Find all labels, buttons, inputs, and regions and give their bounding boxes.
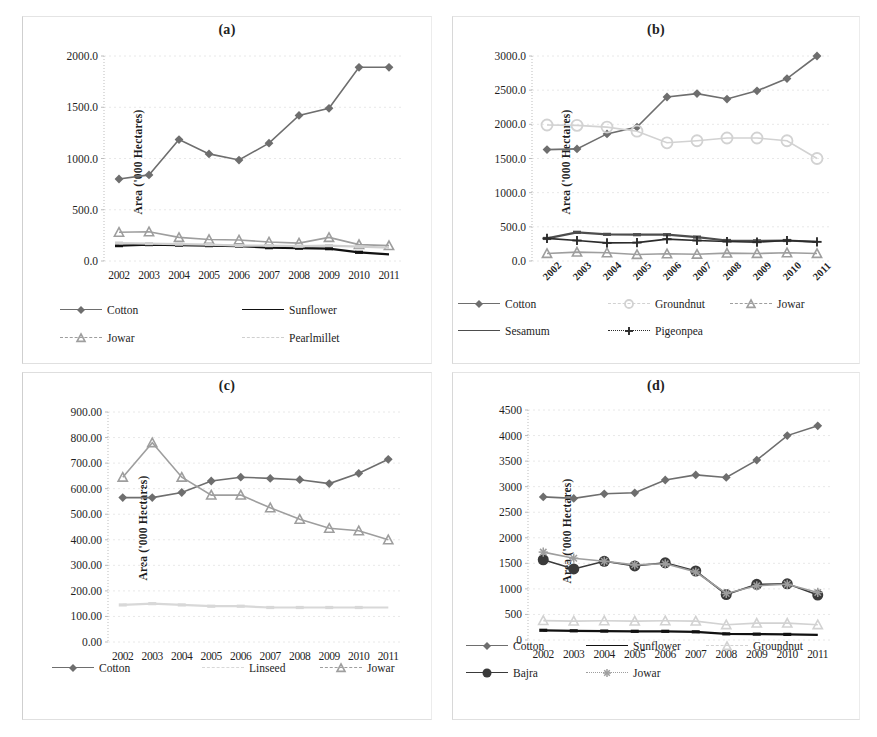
legend-swatch-jowar-icon [586,667,628,679]
x-tick-label: 2003 [138,269,160,281]
panel-d-legend: CottonSunflowerGroundnutBajraJowar [466,640,866,694]
y-tick-label: 500.0 [72,204,98,216]
legend-swatch-pearlmillet-icon [242,332,284,344]
y-tick-label: 4000 [499,430,522,442]
legend-item-pigeonpea[interactable]: Pigeonpea [608,325,703,337]
legend-label: Sesamum [505,325,550,337]
legend-item-pearlmillet[interactable]: Pearlmillet [242,332,339,344]
legend-item-jowar[interactable]: Jowar [730,298,804,310]
legend-swatch-cotton-icon [60,304,102,316]
y-tick-label: 300.00 [70,559,102,571]
series-line-sunflower [543,630,818,635]
legend-item-jowar[interactable]: Jowar [320,662,394,674]
legend-label: Pearlmillet [289,332,339,344]
legend-swatch-jowar-icon [730,298,772,310]
series-marker-cotton [236,473,245,482]
series-marker-cotton [205,149,214,158]
legend-item-jowar[interactable]: Jowar [586,667,660,679]
legend-label: Jowar [777,298,804,310]
series-marker-jowar [783,580,792,589]
series-marker-cotton [235,156,244,165]
y-tick-label: 1000.0 [494,187,526,199]
legend-label: Jowar [633,667,660,679]
legend-item-cotton[interactable]: Cotton [466,640,544,652]
x-tick-label: 2002 [112,650,134,662]
legend-item-sesamum[interactable]: Sesamum [458,325,550,337]
figure-sheet: (a) Area ('000 Hectares) 0.0500.01000.01… [0,0,877,737]
panel-d-plot: 0500100015002000250030003500400045002002… [528,410,847,666]
y-tick-label: 500.00 [70,508,102,520]
series-line-linseed [123,604,389,608]
legend-swatch-cotton-icon [458,298,500,310]
legend-item-cotton[interactable]: Cotton [60,304,138,316]
series-marker-cotton [148,493,157,502]
series-marker-jowar [569,554,578,563]
series-line-cotton [547,56,817,150]
series-marker-jowar [600,557,609,566]
legend-label: Linseed [249,662,285,674]
series-marker-jowar [539,547,548,556]
panel-a-plot: 0.0500.01000.01500.02000.020022003200420… [104,56,418,287]
x-tick-label: 2011 [379,269,401,281]
legend-item-jowar[interactable]: Jowar [60,332,134,344]
x-tick-label: 2010 [348,269,370,281]
x-tick-label: 2004 [171,650,193,662]
y-tick-label: 3500 [499,455,522,467]
x-tick-label: 2010 [781,260,804,283]
legend-swatch-sunflower-icon [242,304,284,316]
panel-b-title: (b) [452,22,860,38]
series-marker-cotton [753,86,762,95]
x-tick-label: 2005 [198,269,220,281]
legend-item-sunflower[interactable]: Sunflower [586,640,681,652]
series-line-bajra [543,560,818,595]
series-marker-cotton [115,175,124,184]
legend-label: Sunflower [289,304,337,316]
x-tick-label: 2007 [260,650,282,662]
x-tick-label: 2005 [201,650,223,662]
series-line-jowar [547,252,817,254]
series-marker-cotton [722,473,731,482]
legend-item-cotton[interactable]: Cotton [458,298,536,310]
legend-swatch-groundnut-icon [608,298,650,310]
x-tick-label: 2004 [601,259,624,282]
series-marker-pigeonpea [632,238,641,247]
x-tick-label: 2002 [541,260,564,283]
y-tick-label: 2000.0 [494,118,526,130]
series-marker-jowar [691,567,700,576]
series-marker-cotton [813,421,822,430]
legend-swatch-groundnut-icon [706,640,748,652]
legend-swatch-sunflower-icon [586,640,628,652]
panel-d-title: (d) [452,378,860,394]
y-tick-label: 0.0 [512,255,527,267]
legend-item-groundnut[interactable]: Groundnut [608,298,705,310]
legend-swatch-pigeonpea-icon [608,325,650,337]
legend-item-cotton[interactable]: Cotton [52,662,130,674]
panel-c-plot: 0.00100.00200.00300.00400.00500.00600.00… [108,412,417,668]
legend-swatch-bajra-icon [466,667,508,679]
series-marker-cotton [118,493,127,502]
legend-item-groundnut[interactable]: Groundnut [706,640,803,652]
y-tick-label: 2000.0 [66,50,98,62]
x-tick-label: 2008 [289,650,311,662]
series-marker-cotton [573,145,582,154]
legend-item-sunflower[interactable]: Sunflower [242,304,337,316]
x-tick-label: 2010 [348,650,370,662]
series-marker-pigeonpea [782,236,791,245]
panel-a-legend: CottonSunflowerJowarPearlmillet [60,304,425,360]
y-tick-label: 1500.0 [66,101,98,113]
legend-item-bajra[interactable]: Bajra [466,667,538,679]
y-tick-label: 1500 [499,557,522,569]
x-tick-label: 2003 [571,260,594,283]
series-marker-cotton [384,455,393,464]
legend-swatch-jowar-icon [60,332,102,344]
chart-panel-c: (c) Area ('000 Hectares) 0.00100.00200.0… [22,372,432,720]
y-tick-label: 200.00 [70,585,102,597]
legend-label: Jowar [107,332,134,344]
series-marker-cotton [569,494,578,503]
legend-item-linseed[interactable]: Linseed [202,662,285,674]
legend-swatch-linseed-icon [202,662,244,674]
legend-label: Bajra [513,667,538,679]
chart-panel-a: (a) Area ('000 Hectares) 0.0500.01000.01… [22,16,432,364]
y-tick-label: 700.00 [70,457,102,469]
y-tick-label: 600.00 [70,483,102,495]
